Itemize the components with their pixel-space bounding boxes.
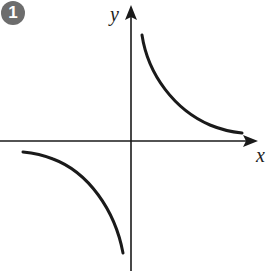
x-axis-label: x — [255, 144, 265, 166]
y-axis-label: y — [108, 3, 119, 26]
graph-figure: 1 y x — [0, 0, 270, 271]
curve-branch-quadrant-3 — [23, 152, 123, 253]
graph-svg: y x — [0, 0, 270, 271]
curve-branch-quadrant-1 — [142, 35, 242, 133]
